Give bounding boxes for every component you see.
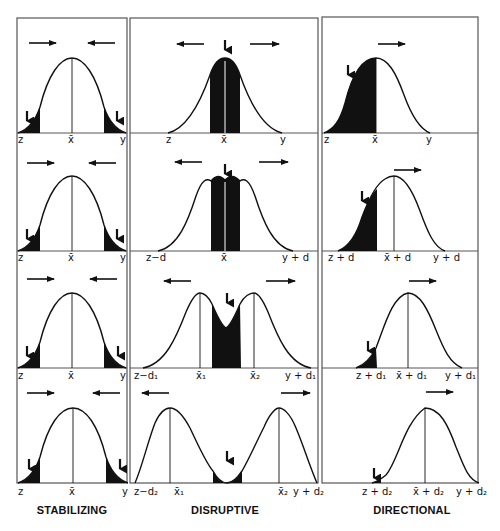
selected-tail-right [106,457,128,483]
column-stabilizing: z x̄ y z x̄ y z x̄ [17,18,128,516]
label-mean-1: x̄₁ [196,370,206,381]
label-y: y [120,252,126,263]
stabilizing-row-2: z x̄ y [18,163,126,263]
disruptive-row-4: z−d₂ x̄₁ x̄₂ y + d₂ [134,393,324,497]
label-mean: x̄ [68,370,74,381]
distribution-curve [135,408,317,483]
column-title-disruptive: DISRUPTIVE [191,504,259,516]
column-directional: z x̄ y z + d x̄ + d y + d z + d₁ x̄ + d₁… [322,17,487,516]
label-mean: x̄ [221,252,227,263]
label-y: y [122,486,128,497]
disruptive-row-2: z−d x̄ y + d [146,162,309,263]
label-y: y [120,134,126,145]
directional-row-3: z + d₁ x̄ + d₁ y + d₁ [356,281,476,381]
selected-tail-right [104,225,126,251]
label-z-plus-d1: z + d₁ [356,370,386,381]
stabilizing-row-3: z x̄ y [18,279,126,381]
label-y: y [280,134,286,145]
label-z-minus-d: z−d [146,252,166,263]
label-mean-plus-d: x̄ + d [384,252,411,263]
selected-tail-left [18,342,40,368]
column-title-directional: DIRECTIONAL [373,504,450,516]
label-mean: x̄ [69,486,75,497]
label-mean-1: x̄₁ [174,486,184,497]
distribution-curve [372,408,479,483]
label-z-plus-d: z + d [328,252,354,263]
label-mean: x̄ [68,134,74,145]
label-mean: x̄ [68,252,74,263]
selection-types-diagram: z x̄ y z x̄ y z x̄ [0,0,500,531]
label-mean: x̄ [372,134,378,145]
label-z-plus-d2: z + d₂ [362,486,392,497]
selected-tail-right [104,107,126,133]
directional-row-2: z + d x̄ + d y + d [328,170,460,263]
label-z: z [18,370,23,381]
label-y-plus-d1: y + d₁ [285,370,316,381]
label-z: z [166,134,171,145]
label-y-plus-d2: y + d₂ [293,486,324,497]
label-mean-2: x̄₂ [250,370,260,381]
stabilizing-row-4: z x̄ y [18,393,128,497]
label-y-plus-d1: y + d₁ [445,370,476,381]
column-title-stabilizing: STABILIZING [37,504,107,516]
selected-left-side [324,58,376,133]
label-z: z [324,134,329,145]
label-y: y [120,370,126,381]
directional-row-1: z x̄ y [324,44,432,145]
label-z-minus-d1: z−d₁ [134,370,158,381]
selected-tail-left [18,107,40,133]
label-y-plus-d: y + d [282,252,309,263]
label-z: z [18,486,23,497]
disruptive-row-3: z−d₁ x̄₁ x̄₂ y + d₁ [134,281,316,381]
directional-row-4: z + d₂ x̄ + d₂ y + d₂ [362,392,487,497]
label-z-minus-d2: z−d₂ [134,486,158,497]
label-y-plus-d: y + d [433,252,460,263]
label-mean-plus-d1: x̄ + d₁ [396,370,427,381]
label-mean-2: x̄₂ [278,486,288,497]
selected-left-tail [338,189,377,251]
selected-tail-right [104,342,126,368]
stabilizing-row-1: z x̄ y [18,43,126,145]
disruptive-row-1: z x̄ y [166,40,286,145]
column-disruptive: z x̄ y z−d x̄ y + d z−d₁ x̄₁ [130,18,324,516]
label-mean-plus-d2: x̄ + d₂ [413,486,444,497]
label-y-plus-d2: y + d₂ [456,486,487,497]
selected-tail-left [18,225,40,251]
label-y: y [426,134,432,145]
label-z: z [18,252,23,263]
label-z: z [18,134,23,145]
label-mean: x̄ [221,134,227,145]
